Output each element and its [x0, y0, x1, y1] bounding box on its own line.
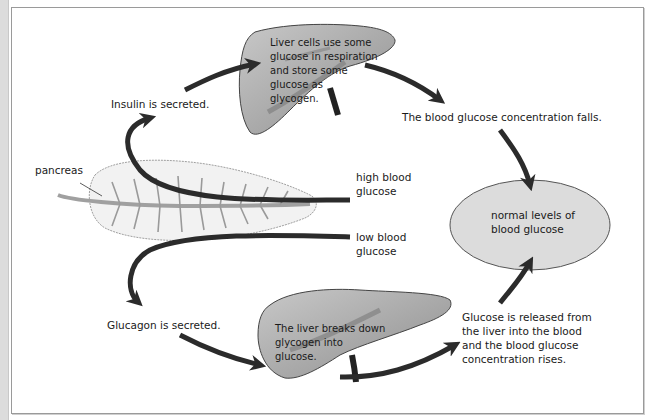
label-insulin-secreted: Insulin is secreted.: [111, 97, 209, 111]
label-liver-bottom: The liver breaks down glycogen into gluc…: [275, 322, 385, 364]
falls-to-normal-arrow: [500, 130, 530, 185]
label-high-blood-glucose: high blood glucose: [356, 170, 411, 198]
label-glucose-rises: Glucose is released from the liver into …: [462, 310, 592, 366]
label-low-blood-glucose: low blood glucose: [356, 230, 406, 258]
label-pancreas: pancreas: [35, 163, 83, 177]
label-normal-levels: normal levels of blood glucose: [491, 208, 575, 236]
label-glucose-falls: The blood glucose concentration falls.: [402, 110, 602, 124]
label-glucagon-secreted: Glucagon is secreted.: [107, 318, 221, 332]
label-liver-top: Liver cells use some glucose in respirat…: [270, 36, 378, 106]
glucagon-to-liver-arrow: [180, 335, 260, 365]
